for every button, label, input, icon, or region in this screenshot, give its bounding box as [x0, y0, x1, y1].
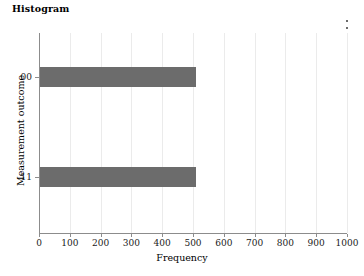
bar-00[interactable]	[39, 67, 196, 87]
x-tick-label-0: 0	[36, 238, 42, 248]
gridline-x-400	[162, 33, 163, 233]
y-axis-title: Measurement outcome	[15, 51, 26, 211]
x-tick-label-900: 900	[308, 238, 325, 248]
x-axis-title: Frequency	[0, 252, 364, 263]
x-tick-label-300: 300	[123, 238, 140, 248]
gridline-x-500	[193, 33, 194, 233]
x-tick-label-1000: 1000	[336, 238, 359, 248]
x-tick-mark-1000	[347, 234, 348, 237]
x-tick-mark-900	[316, 234, 317, 237]
x-tick-mark-800	[285, 234, 286, 237]
gridline-x-1000	[347, 33, 348, 233]
gridline-x-800	[285, 33, 286, 233]
x-tick-mark-200	[101, 234, 102, 237]
kebab-dot-2	[346, 27, 348, 29]
y-tick-mark-00	[35, 77, 39, 78]
gridline-x-900	[316, 33, 317, 233]
x-tick-mark-500	[193, 234, 194, 237]
gridline-x-300	[131, 33, 132, 233]
x-tick-mark-0	[39, 234, 40, 237]
gridline-x-700	[255, 33, 256, 233]
x-tick-mark-100	[70, 234, 71, 237]
bar-11[interactable]	[39, 167, 196, 187]
kebab-dot-1	[346, 20, 348, 22]
x-tick-label-100: 100	[61, 238, 78, 248]
x-tick-mark-600	[224, 234, 225, 237]
plot-area	[39, 33, 347, 233]
x-tick-mark-300	[131, 234, 132, 237]
x-tick-label-600: 600	[215, 238, 232, 248]
x-tick-label-700: 700	[246, 238, 263, 248]
x-tick-mark-700	[255, 234, 256, 237]
gridline-x-100	[70, 33, 71, 233]
x-tick-mark-400	[162, 234, 163, 237]
x-tick-label-200: 200	[92, 238, 109, 248]
page-title: Histogram	[12, 3, 69, 15]
gridline-x-600	[224, 33, 225, 233]
y-axis-spine	[39, 33, 40, 234]
x-tick-label-800: 800	[277, 238, 294, 248]
gridline-x-200	[101, 33, 102, 233]
x-tick-label-400: 400	[154, 238, 171, 248]
y-tick-mark-11	[35, 177, 39, 178]
x-tick-label-500: 500	[184, 238, 201, 248]
